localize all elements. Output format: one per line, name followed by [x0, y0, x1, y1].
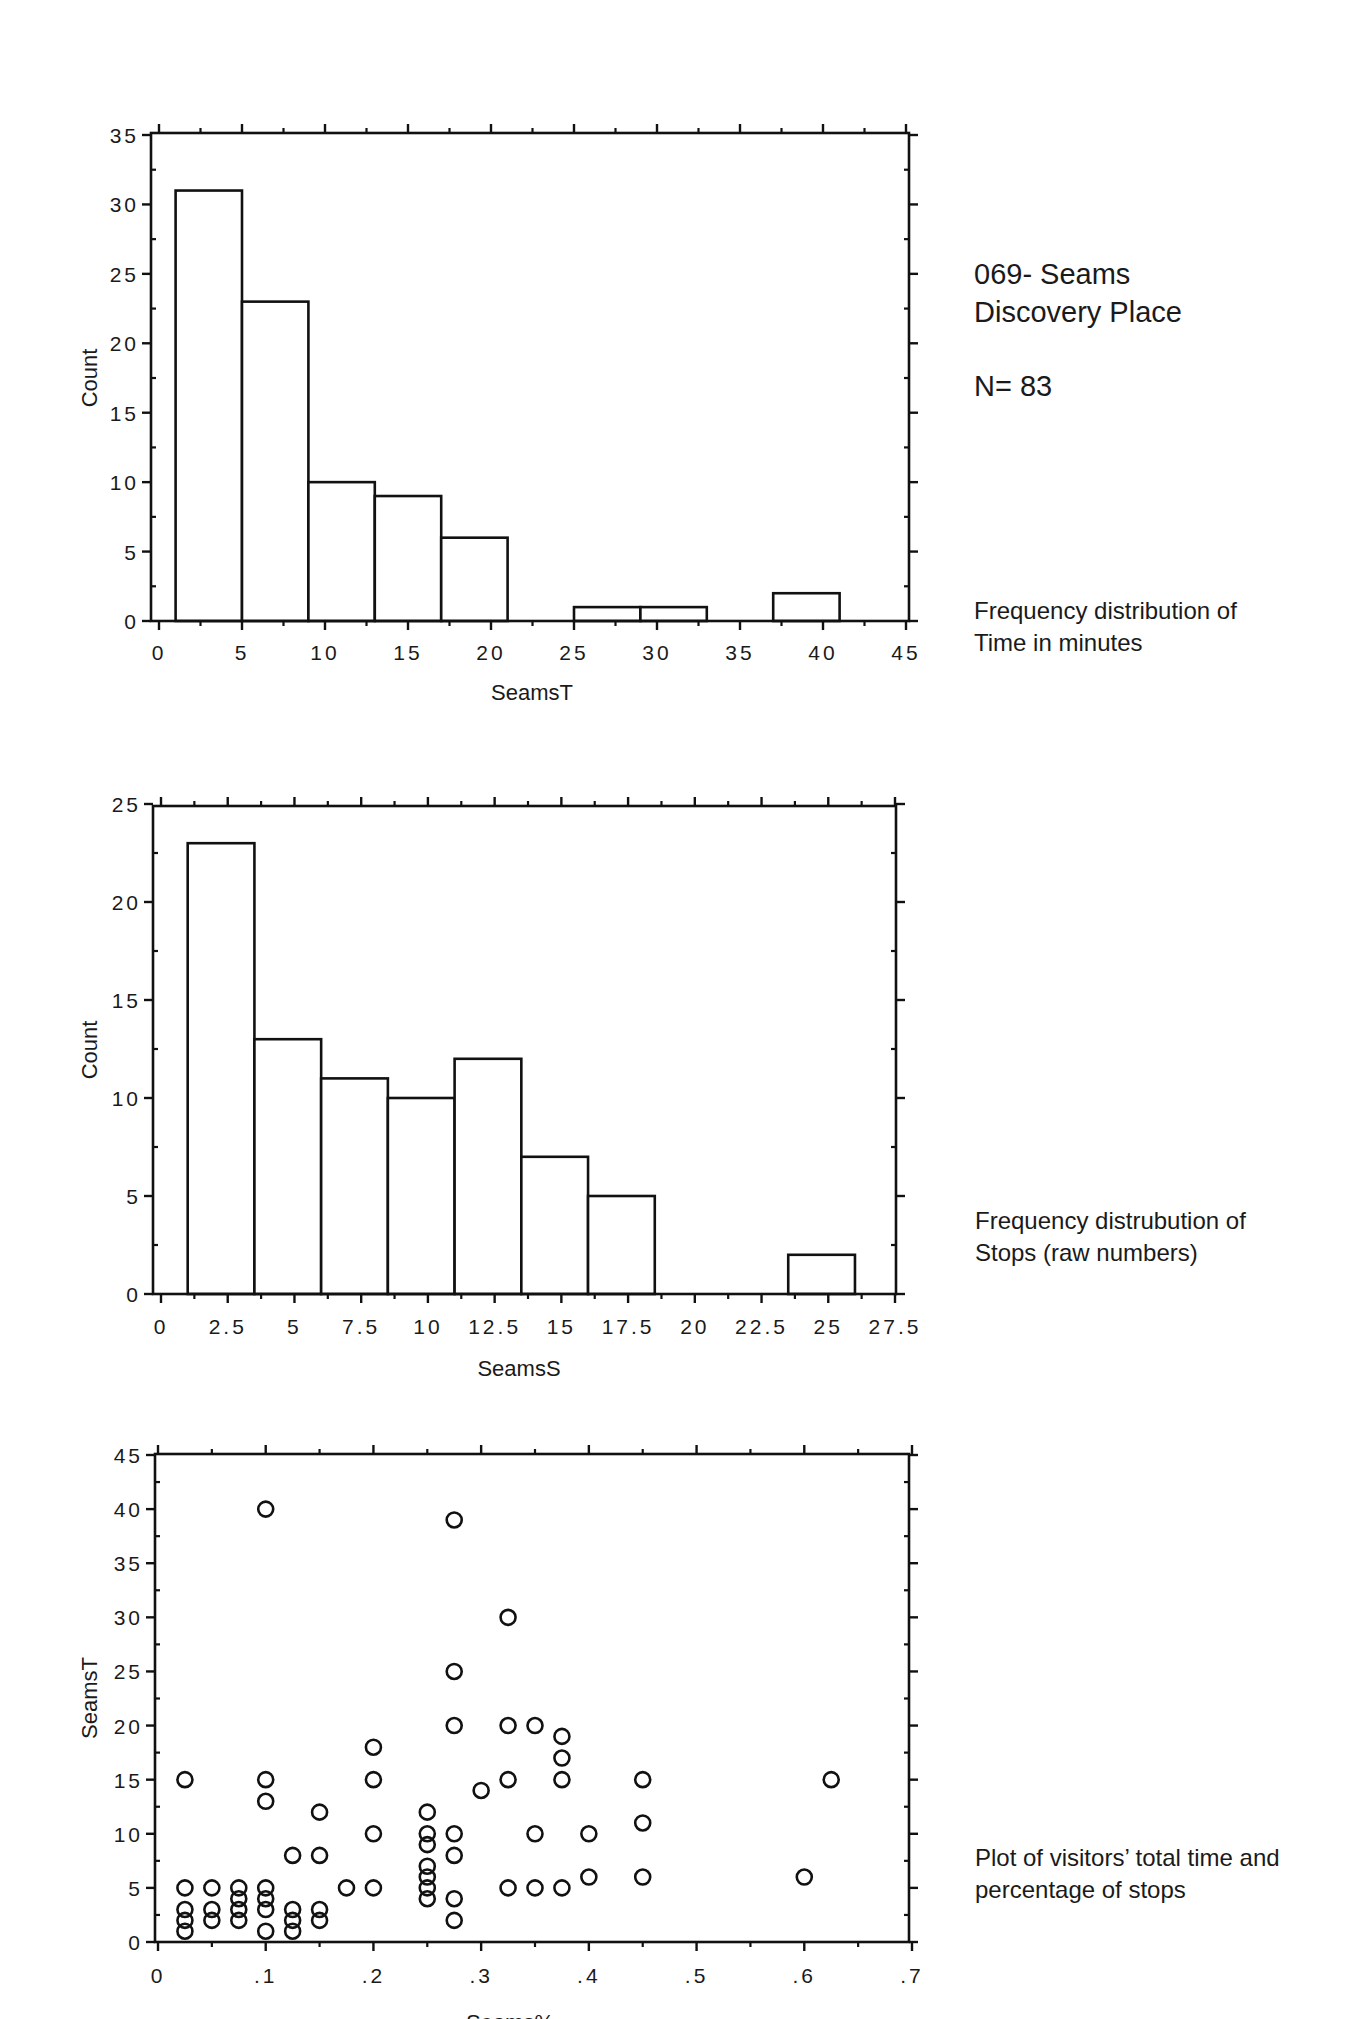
x-tick-label: .7: [900, 1964, 924, 1987]
scatter-point: [824, 1772, 839, 1787]
scatter-point: [581, 1826, 596, 1841]
scatter-point: [528, 1880, 543, 1895]
scatter-point: [177, 1772, 192, 1787]
scatter-point: [366, 1772, 381, 1787]
scatter-point: [554, 1751, 569, 1766]
x-tick-label: .5: [685, 1964, 709, 1987]
scatter-point: [501, 1610, 516, 1625]
scatter-point: [285, 1848, 300, 1863]
scatter-point: [285, 1924, 300, 1939]
caption-time-histogram: Frequency distribution of Time in minute…: [974, 595, 1237, 659]
scatter-point: [447, 1512, 462, 1527]
x-tick-labels: 0.1.2.3.4.5.6.7: [151, 1964, 924, 1987]
caption-stops-histogram: Frequency distrubution of Stops (raw num…: [975, 1205, 1246, 1269]
scatter-point: [447, 1826, 462, 1841]
scatter-point: [528, 1826, 543, 1841]
y-axis-label: SeamsT: [77, 1657, 102, 1739]
scatter-point: [177, 1880, 192, 1895]
caption-line: Frequency distrubution of: [975, 1205, 1246, 1237]
x-tick-label: .3: [469, 1964, 493, 1987]
x-tick-label: .4: [577, 1964, 601, 1987]
scatter-point: [635, 1772, 650, 1787]
y-tick-label: 45: [114, 1444, 143, 1467]
caption-line: percentage of stops: [975, 1874, 1280, 1906]
x-axis-label: Seams%: [466, 2010, 554, 2019]
scatter-point: [635, 1870, 650, 1885]
scatter-point: [258, 1902, 273, 1917]
frame: [146, 1445, 918, 1951]
y-tick-label: 35: [114, 1552, 143, 1575]
y-tick-label: 5: [128, 1877, 143, 1900]
y-tick-label: 25: [114, 1660, 143, 1683]
scatter-point: [366, 1740, 381, 1755]
scatter-point: [231, 1913, 246, 1928]
scatter-point: [366, 1880, 381, 1895]
scatter-point: [258, 1502, 273, 1517]
scatter-point: [554, 1772, 569, 1787]
caption-line: Frequency distribution of: [974, 595, 1237, 627]
scatter-point: [635, 1815, 650, 1830]
scatter-point: [339, 1880, 354, 1895]
scatter-point: [312, 1805, 327, 1820]
x-tick-label: .1: [254, 1964, 278, 1987]
x-tick-label: .2: [362, 1964, 386, 1987]
exhibit-title-line2: Discovery Place: [974, 293, 1182, 331]
scatter-point: [501, 1718, 516, 1733]
caption-line: Plot of visitors’ total time and: [975, 1842, 1280, 1874]
scatter-point: [501, 1880, 516, 1895]
scatter-point: [447, 1848, 462, 1863]
scatter-point: [204, 1880, 219, 1895]
scatter-point: [258, 1772, 273, 1787]
exhibit-title-line1: 069- Seams: [974, 255, 1182, 293]
x-tick-label: 0: [151, 1964, 166, 1987]
scatter-point: [420, 1891, 435, 1906]
scatter-point: [366, 1826, 381, 1841]
scatter-point: [581, 1870, 596, 1885]
points: [177, 1502, 838, 1939]
scatter-point: [258, 1924, 273, 1939]
scatter-point: [797, 1870, 812, 1885]
scatter-point: [554, 1880, 569, 1895]
y-tick-label: 30: [114, 1606, 143, 1629]
scatter-point: [447, 1718, 462, 1733]
scatter-point: [528, 1718, 543, 1733]
y-tick-label: 0: [128, 1931, 143, 1954]
scatter-point: [312, 1848, 327, 1863]
scatter-point: [447, 1913, 462, 1928]
scatter-point: [447, 1891, 462, 1906]
scatter-point: [258, 1794, 273, 1809]
y-tick-label: 20: [114, 1715, 143, 1738]
y-tick-label: 10: [114, 1823, 143, 1846]
scatter-point: [447, 1664, 462, 1679]
caption-line: Stops (raw numbers): [975, 1237, 1246, 1269]
scatter-point: [177, 1924, 192, 1939]
scatter-point: [554, 1729, 569, 1744]
scatter-point: [501, 1772, 516, 1787]
y-tick-label: 15: [114, 1769, 143, 1792]
scatter-point: [420, 1805, 435, 1820]
plot-frame: [155, 1454, 909, 1942]
scatter-point: [312, 1913, 327, 1928]
scatter-point: [474, 1783, 489, 1798]
scatter-point: [204, 1913, 219, 1928]
y-tick-label: 40: [114, 1498, 143, 1521]
caption-scatter: Plot of visitors’ total time and percent…: [975, 1842, 1280, 1906]
exhibit-title: 069- Seams Discovery Place N= 83: [974, 255, 1182, 405]
scatter-point: [420, 1837, 435, 1852]
sample-size: N= 83: [974, 367, 1182, 405]
y-tick-labels: 051015202530354045: [114, 1444, 143, 1954]
x-tick-label: .6: [793, 1964, 817, 1987]
caption-line: Time in minutes: [974, 627, 1237, 659]
